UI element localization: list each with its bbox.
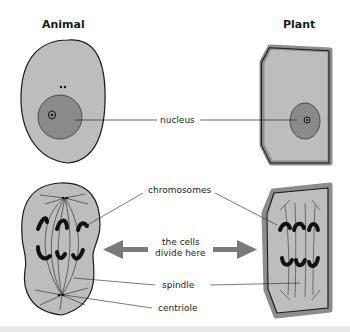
animal-cell-interphase: [21, 40, 105, 163]
spindle-label: spindle: [162, 280, 194, 291]
divide-arrow-left: [103, 240, 148, 259]
animal-cell-dividing: [22, 183, 100, 315]
animal-centriole-top: [60, 86, 62, 88]
chromosomes-label: chromosomes: [148, 185, 211, 196]
plant-cell-dividing: [264, 185, 330, 316]
plant-nucleus: [290, 103, 320, 139]
divide-label-line2: divide here: [155, 248, 205, 259]
animal-nucleus: [38, 95, 82, 139]
nucleus-label: nucleus: [160, 115, 195, 126]
divide-arrow-right: [213, 240, 257, 259]
footer-strip: [0, 326, 350, 332]
centriole-label: centriole: [158, 303, 197, 314]
plant-cell-interphase: [261, 47, 330, 163]
divide-label-line1: the cells: [162, 237, 200, 248]
